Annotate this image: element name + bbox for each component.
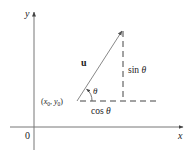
sin-theta-label: sin θ bbox=[128, 65, 146, 75]
start-point-label: (x0, y0) bbox=[41, 97, 63, 107]
y-axis-label: y bbox=[24, 8, 30, 19]
angle-arc bbox=[87, 89, 93, 101]
theta-label: θ bbox=[93, 86, 98, 96]
x-axis-label: x bbox=[177, 130, 183, 141]
diagram-svg: y x 0 u θ sin θ cos θ (x0, y0) bbox=[0, 0, 192, 160]
origin-label: 0 bbox=[25, 130, 30, 141]
cos-theta-label: cos θ bbox=[91, 106, 111, 116]
vector-label: u bbox=[81, 57, 87, 68]
diagram-canvas: y x 0 u θ sin θ cos θ (x0, y0) bbox=[0, 0, 192, 160]
